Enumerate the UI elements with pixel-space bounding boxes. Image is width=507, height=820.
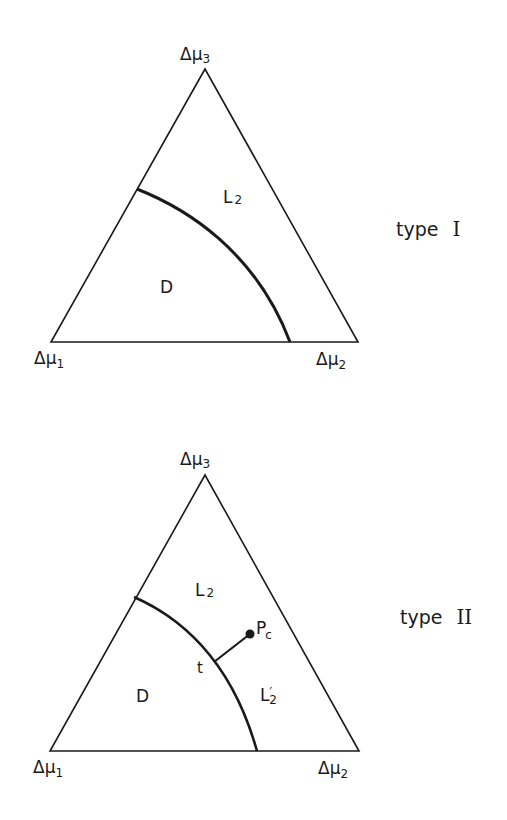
ternary-phase-diagrams: Δμ3 Δμ1 Δμ2 L2 D typeI Δμ3 Δμ1 Δμ2 [0,0,507,820]
phase-boundary-curve [137,189,290,342]
triangle-outline [51,69,358,342]
vertex-label-right: Δμ2 [318,758,348,781]
critical-point-marker [246,630,255,639]
region-label-L2: L2 [223,187,242,207]
critical-line-segment [214,634,250,662]
diagram-type-2: Δμ3 Δμ1 Δμ2 L2 D L′2 t Pc typeII [33,449,472,781]
region-label-L2-prime: L′2 [260,685,277,707]
type-label-2: typeII [400,605,472,629]
region-label-L2: L2 [195,580,214,600]
region-label-D: D [136,686,149,706]
phase-boundary-curve [134,597,257,751]
vertex-label-left: Δμ1 [33,757,63,780]
type-label-1: typeI [396,217,460,241]
vertex-label-left: Δμ1 [34,348,64,371]
triple-point-label-t: t [197,659,203,677]
region-label-D: D [160,277,173,297]
diagram-type-1: Δμ3 Δμ1 Δμ2 L2 D typeI [34,44,460,372]
vertex-label-right: Δμ2 [316,349,346,372]
vertex-label-top: Δμ3 [180,44,210,66]
vertex-label-top: Δμ3 [180,449,210,471]
critical-point-label-Pc: Pc [256,618,272,642]
triangle-outline [50,475,359,751]
